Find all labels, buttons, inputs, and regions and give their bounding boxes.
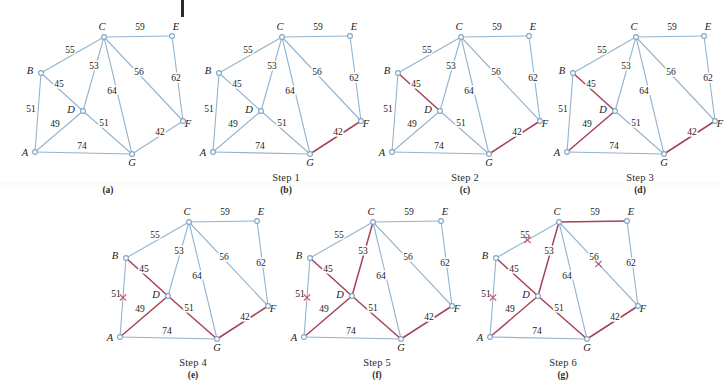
edge-AG xyxy=(35,152,132,154)
node-label-C: C xyxy=(630,21,638,32)
edge-weight-FG: 42 xyxy=(610,312,620,322)
edge-weight-AD: 49 xyxy=(135,304,145,314)
node-label-C: C xyxy=(455,21,463,32)
edge-weight-CE: 59 xyxy=(667,22,677,32)
panel-step-label-f: Step 5 xyxy=(277,357,477,368)
graph-diagram-e: 5555595945455353646456566262515149495151… xyxy=(93,193,293,361)
node-label-A: A xyxy=(476,332,484,343)
node-C xyxy=(280,35,285,40)
node-E xyxy=(702,34,707,39)
edge-CD xyxy=(168,222,189,296)
node-label-A: A xyxy=(199,147,207,158)
node-label-E: E xyxy=(529,21,537,32)
edge-weight-CG: 64 xyxy=(192,271,202,281)
node-label-F: F xyxy=(269,303,277,314)
node-A xyxy=(33,150,38,155)
node-label-G: G xyxy=(485,157,493,168)
node-D xyxy=(166,294,171,299)
edge-weight-AG: 74 xyxy=(77,141,87,151)
node-label-F: F xyxy=(639,303,647,314)
node-G xyxy=(308,152,313,157)
edge-weight-AG: 74 xyxy=(609,141,619,151)
node-C xyxy=(634,35,639,40)
edge-CD-selected xyxy=(352,222,373,296)
edge-weight-AD: 49 xyxy=(582,119,592,129)
edge-weight-AB: 51 xyxy=(204,104,214,114)
node-label-C: C xyxy=(367,206,375,217)
edge-weight-BD: 45 xyxy=(586,79,596,89)
node-D xyxy=(81,109,86,114)
node-B xyxy=(308,256,313,261)
edge-weight-CF: 56 xyxy=(589,252,599,262)
graph-diagram-d: 5555595945455353646456566262515149495151… xyxy=(540,8,728,176)
edge-AD-selected xyxy=(567,111,615,152)
edge-weight-BC: 55 xyxy=(597,45,607,55)
node-G xyxy=(130,152,135,157)
node-label-F: F xyxy=(453,303,461,314)
node-D xyxy=(350,294,355,299)
edge-FG-selected xyxy=(489,121,540,154)
edge-weight-AB: 51 xyxy=(295,289,305,299)
edge-AG xyxy=(213,152,310,154)
node-E xyxy=(170,34,175,39)
edge-weight-AG: 74 xyxy=(346,326,356,336)
edge-weight-CF: 56 xyxy=(666,67,676,77)
node-label-E: E xyxy=(172,21,180,32)
edge-weight-FG: 42 xyxy=(424,312,434,322)
edge-FG-selected xyxy=(401,306,452,339)
edge-AD xyxy=(213,111,261,152)
edge-AD-selected xyxy=(120,296,168,337)
edge-AD xyxy=(392,111,440,152)
edge-weight-CF: 56 xyxy=(219,252,229,262)
edge-weight-CD: 53 xyxy=(174,246,184,256)
edge-weight-AG: 74 xyxy=(434,141,444,151)
node-label-D: D xyxy=(423,104,432,115)
node-G xyxy=(399,337,404,342)
node-label-B: B xyxy=(205,65,212,76)
edge-weight-BC: 55 xyxy=(422,45,432,55)
node-label-D: D xyxy=(244,104,253,115)
panel-letter-label-g: (g) xyxy=(463,370,663,380)
edge-weight-AG: 74 xyxy=(532,326,542,336)
node-B xyxy=(124,256,129,261)
edge-weight-CE: 59 xyxy=(135,22,145,32)
graph-diagram-b: 5555595945455353646456566262515149495151… xyxy=(186,8,386,176)
edge-weight-AB: 51 xyxy=(26,104,36,114)
edge-weight-CG: 64 xyxy=(107,86,117,96)
edge-AB xyxy=(213,73,219,152)
panel-step-label-c: Step 2 xyxy=(365,172,565,183)
edge-weight-DG: 51 xyxy=(368,303,378,313)
edge-AG xyxy=(392,152,489,154)
edge-weight-CD: 53 xyxy=(267,61,277,71)
edge-CE xyxy=(104,36,172,37)
edge-CE xyxy=(189,221,257,222)
node-E xyxy=(527,34,532,39)
panel-letter-label-f: (f) xyxy=(277,370,477,380)
edge-FG-selected xyxy=(310,121,361,154)
node-D xyxy=(438,109,443,114)
node-label-C: C xyxy=(98,21,106,32)
node-label-A: A xyxy=(290,332,298,343)
node-label-A: A xyxy=(21,147,29,158)
node-label-E: E xyxy=(441,206,449,217)
node-E xyxy=(439,219,444,224)
edge-weight-FG: 42 xyxy=(687,127,697,137)
edge-weight-AG: 74 xyxy=(162,326,172,336)
node-B xyxy=(571,71,576,76)
node-A xyxy=(302,335,307,340)
edge-weight-BC: 55 xyxy=(243,45,253,55)
edge-weight-EF: 62 xyxy=(528,73,538,83)
edge-weight-CD: 53 xyxy=(544,246,554,256)
graph-panel-a: 5555595945455353646456566262515149495151… xyxy=(8,8,208,204)
edge-CD-selected xyxy=(538,222,559,296)
node-G xyxy=(585,337,590,342)
graph-panel-f: 5555595945455353646456566262515149495151… xyxy=(277,193,477,385)
edge-weight-EF: 62 xyxy=(256,258,266,268)
edge-weight-CF: 56 xyxy=(134,67,144,77)
edge-weight-AD: 49 xyxy=(505,304,515,314)
edge-weight-CE: 59 xyxy=(313,22,323,32)
node-C xyxy=(102,35,107,40)
node-label-B: B xyxy=(384,65,391,76)
node-C xyxy=(459,35,464,40)
node-C xyxy=(371,220,376,225)
